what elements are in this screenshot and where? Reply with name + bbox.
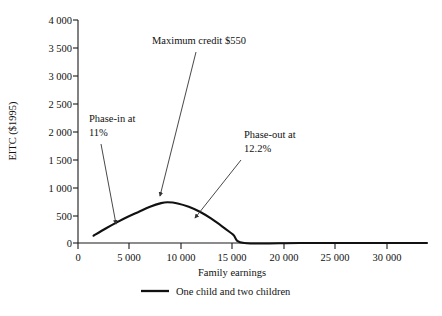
annotation-phase-in-line2: 11% — [89, 127, 108, 138]
y-tick-label-3500: 3 500 — [48, 43, 72, 54]
x-tick-label-15000: 15 000 — [218, 252, 247, 263]
x-tick-label-30000: 30 000 — [373, 252, 402, 263]
y-tick-label-2000: 2 000 — [48, 127, 72, 138]
y-tick-label-4000: 4 000 — [48, 15, 72, 26]
y-tick-label-500: 500 — [56, 211, 72, 222]
annotation-phase-out-line1: Phase-out at — [244, 129, 296, 140]
chart-svg: EITC ($1995) 4 000 3 500 3 000 2 500 2 0… — [0, 0, 442, 316]
eitc-chart-figure: EITC ($1995) 4 000 3 500 3 000 2 500 2 0… — [0, 0, 442, 316]
y-tick-label-2500: 2 500 — [48, 99, 72, 110]
y-tick-label-1000: 1 000 — [48, 183, 72, 194]
y-axis-title: EITC ($1995) — [7, 101, 19, 161]
annotation-phase-out-line2: 12.2% — [244, 143, 271, 154]
y-tick-label-3000: 3 000 — [48, 71, 72, 82]
x-tick-label-25000: 25 000 — [321, 252, 350, 263]
x-tick-label-20000: 20 000 — [270, 252, 299, 263]
y-tick-label-0: 0 — [67, 238, 72, 249]
annotation-max-credit: Maximum credit $550 — [152, 35, 246, 46]
x-tick-label-0: 0 — [75, 252, 80, 263]
legend-label-one-and-two-children: One child and two children — [176, 286, 291, 297]
x-tick-label-10000: 10 000 — [167, 252, 196, 263]
y-tick-label-1500: 1 500 — [48, 155, 72, 166]
annotation-phase-in-line1: Phase-in at — [89, 113, 135, 124]
x-axis-title: Family earnings — [198, 267, 266, 278]
x-tick-label-5000: 5 000 — [117, 252, 141, 263]
